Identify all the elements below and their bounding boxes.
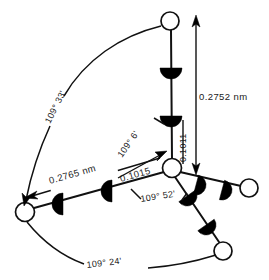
- label-angle-bottom: 109° 24': [86, 256, 122, 270]
- angle-arc-upper-left-b: [26, 126, 50, 200]
- angle-arc-bottom-right: [148, 255, 216, 268]
- lobe-top-upper: [160, 68, 182, 79]
- angle-arc-bottom-left: [27, 222, 84, 264]
- lobe-left-outer: [52, 193, 63, 215]
- dimension-top-total: 0.2752 nm: [192, 15, 259, 175]
- label-angle-inner: 109° 6': [115, 129, 140, 159]
- lobe-top-lower: [160, 116, 182, 127]
- atom-bottom-right: [214, 242, 232, 260]
- label-dist-top-bond: 0.1011: [178, 133, 188, 162]
- label-dist-left-bond: 0.1015: [119, 165, 152, 184]
- atom-left: [16, 203, 35, 222]
- dimension-top-bond: 0.1011: [178, 120, 188, 164]
- atom-top: [161, 12, 179, 30]
- figure-root: 0.2752 nm 0.1011 0.2765 nm 0.1015 109° 3…: [0, 0, 269, 280]
- atom-right: [240, 179, 258, 197]
- label-angle-right: 109° 52': [140, 189, 176, 204]
- bond-center-right: [180, 172, 241, 186]
- lobe-lower-outer: [198, 219, 220, 239]
- label-dist-top-total: 0.2752 nm: [199, 91, 248, 102]
- angle-bottom-group: 109° 24': [27, 222, 216, 270]
- molecular-geometry-diagram: 0.2752 nm 0.1011 0.2765 nm 0.1015 109° 3…: [0, 0, 269, 280]
- bond-center-top: [171, 30, 172, 160]
- label-angle-upper-left: 109° 33': [43, 89, 68, 125]
- angle-arc-upper-left: [64, 26, 161, 96]
- lobe-left-inner: [101, 180, 112, 202]
